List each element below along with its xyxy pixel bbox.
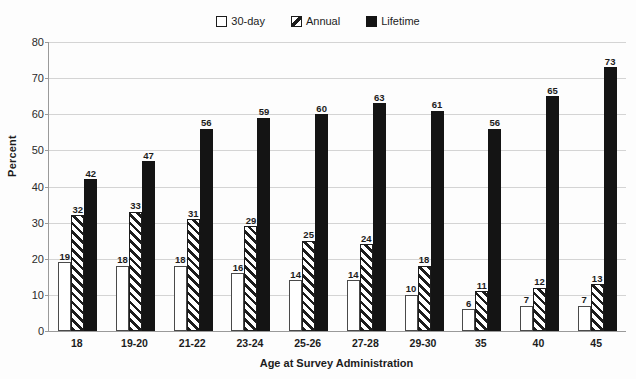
open-square-icon xyxy=(216,16,227,27)
bar-annual[interactable]: 13 xyxy=(591,284,604,331)
bar-value-label: 24 xyxy=(361,234,372,244)
y-axis-tick-mark xyxy=(45,331,49,332)
bar-value-label: 56 xyxy=(489,118,500,128)
bar-group: 71265 xyxy=(511,42,569,331)
bar-annual[interactable]: 24 xyxy=(360,244,373,331)
bar-group: 61156 xyxy=(453,42,511,331)
bar-chart: 30-dayAnnualLifetime Percent 01020304050… xyxy=(0,0,636,379)
bar-lifetime[interactable]: 63 xyxy=(373,103,386,331)
legend-label: 30-day xyxy=(231,16,265,27)
bar-30-day[interactable]: 18 xyxy=(174,266,187,331)
bar-value-label: 29 xyxy=(246,216,257,226)
bar-value-label: 12 xyxy=(534,277,545,287)
bar-group: 183156 xyxy=(164,42,222,331)
bar-value-label: 65 xyxy=(547,86,558,96)
bar-annual[interactable]: 31 xyxy=(187,219,200,331)
bar-30-day[interactable]: 14 xyxy=(289,280,302,331)
y-axis-tick-label: 10 xyxy=(32,289,44,301)
bar-lifetime[interactable]: 56 xyxy=(488,129,501,331)
bar-value-label: 7 xyxy=(581,295,586,305)
bar-lifetime[interactable]: 61 xyxy=(431,111,444,331)
bar-value-label: 18 xyxy=(419,255,430,265)
bar-value-label: 63 xyxy=(374,93,385,103)
bar-value-label: 25 xyxy=(303,230,314,240)
bar-annual[interactable]: 29 xyxy=(244,226,257,331)
bar-annual[interactable]: 11 xyxy=(475,291,488,331)
x-axis-tick-label: 21-22 xyxy=(163,337,221,349)
bar-lifetime[interactable]: 59 xyxy=(257,118,270,331)
y-axis-tick-label: 20 xyxy=(32,253,44,265)
bar-30-day[interactable]: 10 xyxy=(405,295,418,331)
bar-annual[interactable]: 32 xyxy=(71,215,84,331)
bar-lifetime[interactable]: 42 xyxy=(84,179,97,331)
bar-30-day[interactable]: 6 xyxy=(462,309,475,331)
bar-value-label: 14 xyxy=(290,270,301,280)
bar-value-label: 6 xyxy=(466,299,471,309)
legend-item-annual[interactable]: Annual xyxy=(291,16,340,27)
bar-annual[interactable]: 18 xyxy=(418,266,431,331)
bar-value-label: 19 xyxy=(60,252,71,262)
y-axis-title: Percent xyxy=(6,126,18,186)
x-axis-tick-label: 29-30 xyxy=(394,337,452,349)
bar-lifetime[interactable]: 65 xyxy=(546,96,559,331)
x-axis-tick-label: 27-28 xyxy=(337,337,395,349)
bar-30-day[interactable]: 16 xyxy=(231,273,244,331)
bar-30-day[interactable]: 18 xyxy=(116,266,129,331)
bar-lifetime[interactable]: 56 xyxy=(200,129,213,331)
bar-value-label: 61 xyxy=(432,100,443,110)
bar-value-label: 18 xyxy=(175,255,186,265)
x-axis-tick-label: 45 xyxy=(567,337,625,349)
x-axis-tick-label: 35 xyxy=(452,337,510,349)
bar-group: 193242 xyxy=(49,42,107,331)
filled-square-icon xyxy=(366,16,377,27)
bar-value-label: 13 xyxy=(592,274,603,284)
x-axis-tick-label: 23-24 xyxy=(221,337,279,349)
bar-value-label: 56 xyxy=(201,118,212,128)
bar-30-day[interactable]: 19 xyxy=(58,262,71,331)
bar-value-label: 32 xyxy=(73,205,84,215)
bar-lifetime[interactable]: 47 xyxy=(142,161,155,331)
legend-label: Annual xyxy=(306,16,340,27)
x-axis-tick-label: 25-26 xyxy=(279,337,337,349)
bar-annual[interactable]: 33 xyxy=(129,212,142,331)
bar-groups: 1932421833471831561629591425601424631018… xyxy=(49,42,626,331)
bar-group: 142560 xyxy=(280,42,338,331)
bar-annual[interactable]: 25 xyxy=(302,241,315,331)
chart-legend: 30-dayAnnualLifetime xyxy=(0,10,636,32)
x-axis-tick-label: 18 xyxy=(48,337,106,349)
bar-value-label: 31 xyxy=(188,209,199,219)
legend-item-30-day[interactable]: 30-day xyxy=(216,16,265,27)
x-axis-tick-label: 19-20 xyxy=(106,337,164,349)
hatched-square-icon xyxy=(291,16,302,27)
y-axis-tick-label: 0 xyxy=(38,325,44,337)
bar-value-label: 33 xyxy=(130,201,141,211)
x-axis-tick-labels: 1819-2021-2223-2425-2627-2829-30354045 xyxy=(48,337,625,353)
bar-group: 162959 xyxy=(222,42,280,331)
bar-group: 101861 xyxy=(395,42,453,331)
bar-value-label: 16 xyxy=(233,263,244,273)
bar-lifetime[interactable]: 60 xyxy=(315,114,328,331)
bar-value-label: 73 xyxy=(605,57,616,67)
y-axis-tick-label: 40 xyxy=(32,181,44,193)
bar-value-label: 60 xyxy=(316,104,327,114)
y-axis-tick-label: 70 xyxy=(32,72,44,84)
x-axis-tick-label: 40 xyxy=(510,337,568,349)
bar-30-day[interactable]: 14 xyxy=(347,280,360,331)
legend-label: Lifetime xyxy=(381,16,420,27)
plot-area: 01020304050607080 1932421833471831561629… xyxy=(48,42,626,332)
x-axis-title: Age at Survey Administration xyxy=(48,357,625,369)
bar-value-label: 11 xyxy=(477,281,487,291)
bar-lifetime[interactable]: 73 xyxy=(604,67,617,331)
bar-value-label: 42 xyxy=(86,169,97,179)
bar-annual[interactable]: 12 xyxy=(533,288,546,331)
bar-value-label: 47 xyxy=(143,151,154,161)
bar-30-day[interactable]: 7 xyxy=(578,306,591,331)
legend-item-lifetime[interactable]: Lifetime xyxy=(366,16,420,27)
bar-group: 142463 xyxy=(338,42,396,331)
bar-30-day[interactable]: 7 xyxy=(520,306,533,331)
bar-value-label: 10 xyxy=(406,284,417,294)
y-axis-tick-label: 80 xyxy=(32,36,44,48)
y-axis-tick-label: 50 xyxy=(32,144,44,156)
y-axis-tick-label: 60 xyxy=(32,108,44,120)
bar-group: 71373 xyxy=(568,42,626,331)
